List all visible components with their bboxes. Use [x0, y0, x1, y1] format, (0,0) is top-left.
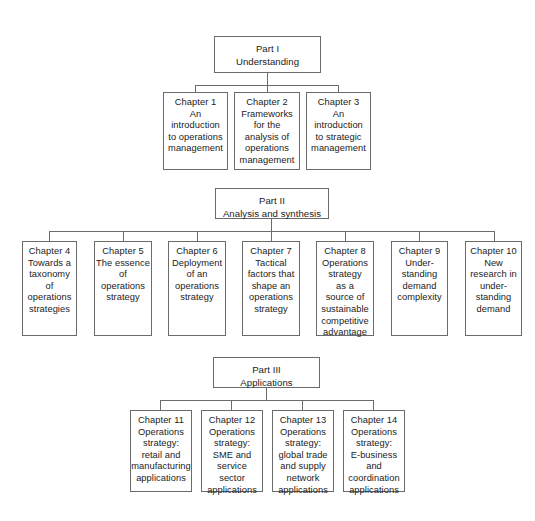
diagram-canvas: Part I Understanding Chapter 1 An introd… — [0, 0, 535, 521]
connector-part2-trunk — [271, 219, 272, 231]
chapter-7-box: Chapter 7 Tactical factors that shape an… — [242, 241, 300, 336]
part-1-box: Part I Understanding — [214, 36, 321, 73]
connector-part3-trunk — [266, 388, 267, 400]
connector-part3-bus — [160, 400, 373, 401]
chapter-6-box: Chapter 6 Deployment of an operations st… — [168, 241, 226, 336]
chapter-11-box: Chapter 11 Operations strategy: retail a… — [130, 410, 192, 492]
chapter-3-box: Chapter 3 An introduction to strategic m… — [306, 92, 371, 170]
connector-chapter-5-drop — [123, 231, 124, 241]
chapter-9-box: Chapter 9 Under- standing demand complex… — [391, 241, 448, 336]
connector-chapter-8-drop — [345, 231, 346, 241]
connector-chapter-2-drop — [267, 85, 268, 92]
connector-chapter-10-drop — [494, 231, 495, 241]
connector-chapter-13-drop — [302, 400, 303, 410]
connector-chapter-14-drop — [373, 400, 374, 410]
chapter-12-box: Chapter 12 Operations strategy: SME and … — [201, 410, 263, 492]
part-2-box: Part II Analysis and synthesis — [215, 188, 329, 219]
connector-chapter-3-drop — [338, 85, 339, 92]
connector-chapter-9-drop — [419, 231, 420, 241]
chapter-10-box: Chapter 10 New research in under- standi… — [465, 241, 522, 336]
chapter-13-box: Chapter 13 Operations strategy: global t… — [272, 410, 334, 492]
connector-chapter-11-drop — [160, 400, 161, 410]
connector-chapter-12-drop — [231, 400, 232, 410]
part-3-box: Part III Applications — [213, 357, 320, 388]
connector-chapter-6-drop — [197, 231, 198, 241]
chapter-5-box: Chapter 5 The essence of operations stra… — [94, 241, 152, 336]
connector-part1-trunk — [267, 73, 268, 85]
connector-chapter-1-drop — [195, 85, 196, 92]
connector-chapter-4-drop — [49, 231, 50, 241]
chapter-2-box: Chapter 2 Frameworks for the analysis of… — [234, 92, 300, 170]
connector-chapter-7-drop — [271, 231, 272, 241]
chapter-14-box: Chapter 14 Operations strategy: E-busine… — [343, 410, 405, 492]
chapter-1-box: Chapter 1 An introduction to operations … — [163, 92, 228, 170]
chapter-4-box: Chapter 4 Towards a taxonomy of operatio… — [22, 241, 77, 336]
chapter-8-box: Chapter 8 Operations strategy as a sourc… — [316, 241, 374, 336]
